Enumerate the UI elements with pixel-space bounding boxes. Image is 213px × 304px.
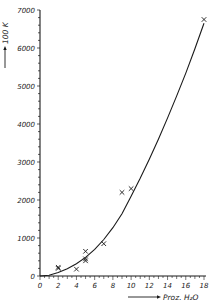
x-tick-label: 10 — [127, 282, 136, 290]
y-axis: 01000200030004000500060007000 — [17, 7, 40, 281]
y-tick-label: 2000 — [17, 197, 35, 205]
x-axis-arrowhead-icon — [157, 295, 161, 298]
y-axis-title-group: 100 K — [1, 21, 10, 68]
data-point-x-marker-icon — [202, 17, 207, 22]
x-axis-title-group: Proz. H₂O — [128, 293, 199, 302]
x-tick-label: 4 — [74, 282, 78, 290]
data-point-x-marker-icon — [129, 186, 134, 191]
data-points — [56, 17, 206, 271]
data-point-x-marker-icon — [101, 241, 106, 246]
x-tick-label: 2 — [56, 282, 61, 290]
x-tick-label: 0 — [38, 282, 43, 290]
x-tick-label: 6 — [92, 282, 97, 290]
y-tick-label: 1000 — [17, 235, 35, 243]
y-tick-label: 7000 — [17, 7, 35, 15]
y-tick-label: 4000 — [17, 121, 35, 129]
x-tick-label: 16 — [181, 282, 190, 290]
data-point-x-marker-icon — [120, 190, 125, 195]
x-tick-label: 12 — [145, 282, 154, 290]
x-tick-label: 8 — [111, 282, 116, 290]
y-tick-label: 5000 — [17, 83, 35, 91]
y-tick-label: 6000 — [17, 45, 35, 53]
data-point-x-marker-icon — [74, 267, 79, 272]
chart: 01000200030004000500060007000 0246810121… — [0, 0, 213, 304]
y-axis-title: 100 K — [1, 21, 10, 44]
fit-curve — [40, 23, 204, 276]
y-tick-label: 3000 — [17, 159, 35, 167]
x-axis: 024681012141618 — [38, 276, 209, 290]
y-tick-label: 0 — [31, 273, 36, 281]
x-tick-label: 18 — [200, 282, 209, 290]
x-tick-label: 14 — [163, 282, 172, 290]
data-point-x-marker-icon — [83, 249, 88, 254]
fit-curve-line — [40, 23, 204, 276]
y-axis-arrowhead-icon — [3, 46, 6, 50]
x-axis-title: Proz. H₂O — [163, 293, 199, 302]
